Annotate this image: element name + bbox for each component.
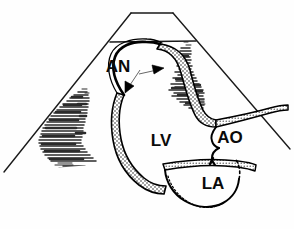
label-an: AN [106,57,131,76]
label-lv: LV [151,131,172,150]
label-la: LA [202,174,225,193]
label-ao: AO [217,128,243,147]
echocardiogram-canvas: AN LV AO LA [0,0,294,229]
echocardiogram-figure: AN LV AO LA [0,0,294,229]
